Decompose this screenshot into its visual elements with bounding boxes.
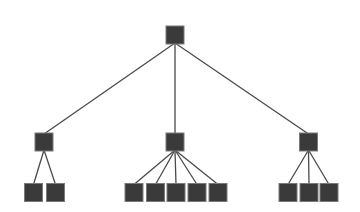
edge-mid-right-to-leaf-right-2 [309,150,310,185]
node-leaf-right-1 [279,184,297,202]
node-leaf-center-2 [147,184,165,202]
edge-mid-center-to-leaf-center-3 [175,150,176,185]
node-root [166,26,184,44]
node-mid-center [166,133,184,151]
edge-mid-center-to-leaf-center-5 [175,150,218,185]
edge-mid-right-to-leaf-right-3 [309,150,330,185]
node-mid-right [300,133,318,151]
node-leaf-left-2 [47,184,65,202]
edge-mid-center-to-leaf-center-1 [134,150,175,185]
tree-edges [34,43,330,185]
node-leaf-center-3 [167,184,185,202]
edge-mid-center-to-leaf-center-4 [175,150,197,185]
edge-root-to-mid-left [44,43,175,134]
node-leaf-center-1 [125,184,143,202]
edge-mid-center-to-leaf-center-2 [156,150,176,185]
edge-root-to-mid-right [175,43,309,134]
node-leaf-center-4 [188,184,206,202]
node-leaf-center-5 [209,184,227,202]
tree-nodes [25,26,339,202]
node-leaf-right-2 [300,184,318,202]
edge-mid-left-to-leaf-left-1 [34,150,45,185]
tree-diagram [0,0,360,212]
edge-mid-left-to-leaf-left-2 [44,150,56,185]
node-leaf-left-1 [25,184,43,202]
node-mid-left [35,133,53,151]
node-leaf-right-3 [320,184,338,202]
edge-mid-right-to-leaf-right-1 [288,150,309,185]
